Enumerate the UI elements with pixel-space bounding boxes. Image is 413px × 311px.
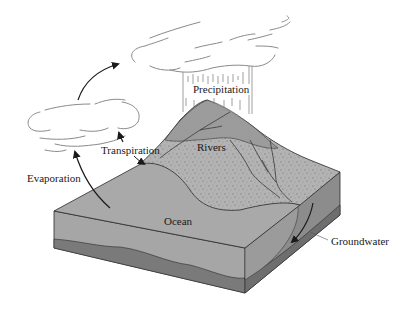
- diagram-canvas: [0, 0, 413, 311]
- label-transpiration: Transpiration: [101, 145, 160, 156]
- water-cycle-diagram: Precipitation Transpiration Rivers Evapo…: [0, 0, 413, 311]
- upper-cloud: [132, 16, 290, 72]
- label-ocean: Ocean: [164, 216, 192, 227]
- label-precipitation: Precipitation: [192, 84, 250, 95]
- label-groundwater: Groundwater: [331, 236, 389, 247]
- transpiration-pointer: [134, 156, 144, 164]
- condensation-arrow: [78, 64, 118, 100]
- block: [54, 100, 340, 293]
- label-evaporation: Evaporation: [27, 173, 81, 184]
- label-rivers: Rivers: [197, 142, 226, 153]
